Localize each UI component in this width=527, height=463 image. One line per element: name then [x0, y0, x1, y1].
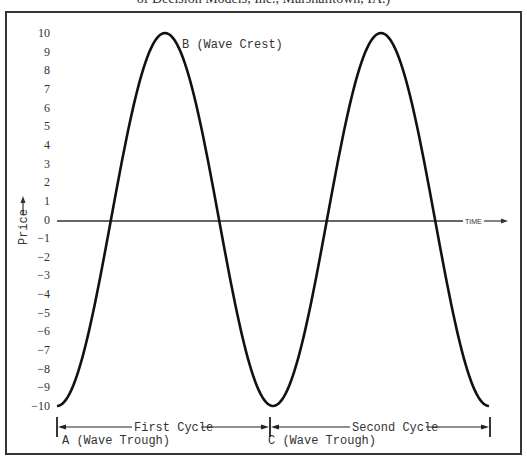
y-tick-label: −2 — [37, 250, 50, 264]
y-tick-label: 2 — [44, 175, 50, 189]
y-tick-label: −7 — [37, 343, 50, 357]
y-tick-label: −8 — [37, 362, 50, 376]
y-tick-label: 7 — [44, 82, 50, 96]
label-wave-crest: B (Wave Crest) — [182, 38, 283, 52]
y-tick-label: 8 — [44, 63, 50, 77]
svg-text:Price: Price — [17, 209, 31, 245]
y-tick-label: 0 — [44, 213, 50, 227]
y-tick-label: 10 — [38, 26, 50, 40]
first-cycle-label: First Cycle — [134, 421, 213, 435]
y-tick-label: −3 — [37, 268, 50, 282]
y-tick-label: −1 — [37, 231, 50, 245]
y-tick-label: 3 — [44, 157, 50, 171]
y-tick-label: −9 — [37, 380, 50, 394]
y-tick-label: −10 — [31, 399, 50, 413]
y-axis-ticks: 109876543210−1−2−3−4−5−6−7−8−9−10 — [31, 26, 50, 413]
second-cycle-label: Second Cycle — [352, 421, 438, 435]
time-axis: TIME — [57, 218, 508, 225]
wave-chart: 109876543210−1−2−3−4−5−6−7−8−9−10 Price … — [0, 0, 527, 463]
price-axis-label: Price — [17, 196, 31, 245]
label-trough-c: C (Wave Trough) — [268, 434, 376, 448]
y-tick-label: −5 — [37, 306, 50, 320]
y-tick-label: 4 — [44, 138, 50, 152]
y-tick-label: 9 — [44, 45, 50, 59]
svg-text:TIME: TIME — [465, 218, 482, 225]
price-wave-line — [57, 33, 489, 406]
y-tick-label: 1 — [44, 194, 50, 208]
label-trough-a: A (Wave Trough) — [62, 434, 170, 448]
y-tick-label: 6 — [44, 101, 50, 115]
y-tick-label: 5 — [44, 119, 50, 133]
y-tick-label: −6 — [37, 324, 50, 338]
y-tick-label: −4 — [37, 287, 50, 301]
